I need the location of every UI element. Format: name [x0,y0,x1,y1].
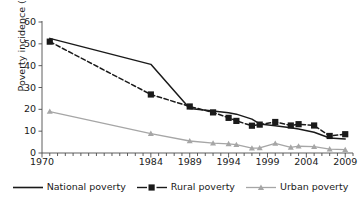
legend-label: National poverty [47,182,126,192]
chart-legend: National povertyRural povertyUrban pover… [0,176,361,198]
series-marker-triangle [47,109,53,114]
legend-item[interactable]: Rural poverty [137,182,235,193]
series-marker-square [311,122,317,128]
plot-area [0,0,361,203]
legend-swatch-solid-line [13,182,43,193]
series-marker-square [295,121,301,127]
series-line [50,112,345,150]
series-marker-square [148,91,154,97]
series-marker-square [226,115,232,121]
legend-swatch-dashed-square [137,182,167,193]
series-marker-square [272,119,278,125]
x-axis-tick-label: 1984 [139,156,163,167]
series-marker-square [249,123,255,129]
legend-label: Urban poverty [280,182,348,192]
series-marker-square [327,133,333,139]
series-marker-square [288,122,294,128]
series-marker-square [210,109,216,115]
legend-label: Rural poverty [171,182,235,192]
poverty-incidence-chart: Poverty incidence (%) 0102030405060 1970… [0,0,361,203]
axes [39,21,354,158]
series-marker-triangle [272,140,278,145]
series-marker-square [233,118,239,124]
x-axis-tick-label: 1994 [217,156,241,167]
x-axis-tick-label: 1989 [178,156,202,167]
x-axis-tick-label: 1999 [255,156,279,167]
legend-item[interactable]: National poverty [13,182,126,193]
data-series [47,38,349,152]
legend-item[interactable]: Urban poverty [246,182,348,193]
series-marker-square [47,39,53,45]
x-axis-tick-labels: 1970198419891994199920042009 [0,156,361,172]
x-axis-tick-label: 1970 [30,156,54,167]
series-marker-square [342,131,348,137]
series-marker-square [257,122,263,128]
series-marker-square [187,103,193,109]
x-axis-tick-label: 2009 [333,156,357,167]
legend-swatch-line-triangle [246,182,276,193]
x-axis-tick-label: 2004 [294,156,318,167]
